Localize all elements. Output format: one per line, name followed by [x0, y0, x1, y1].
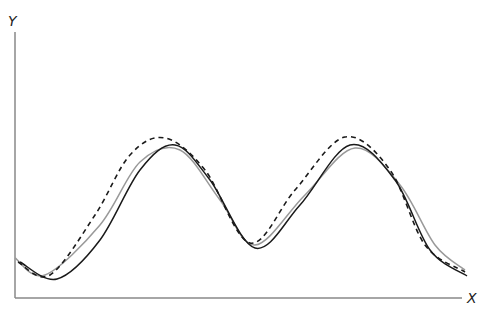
series-dashed-black	[18, 137, 465, 277]
series-solid-black	[20, 144, 467, 279]
y-axis-label: Y	[8, 13, 18, 29]
series-solid-gray	[15, 147, 465, 276]
chart: Y X	[0, 0, 490, 312]
series-layer	[15, 137, 467, 280]
x-axis-label: X	[466, 290, 477, 306]
